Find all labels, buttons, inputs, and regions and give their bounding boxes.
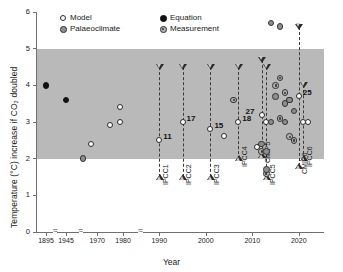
assessment-label: IPCC2 bbox=[185, 164, 192, 185]
assessment-upper-bound-marker bbox=[156, 64, 164, 70]
assessment-label: IPCC1 bbox=[162, 164, 169, 185]
axis-break-mark: ≈ bbox=[138, 227, 142, 235]
y-tick-label: 3 bbox=[14, 118, 30, 126]
y-tick bbox=[33, 48, 37, 49]
y-tick bbox=[33, 158, 37, 159]
data-point-palaeoclimate bbox=[286, 97, 293, 104]
y-tick-label: 6 bbox=[14, 8, 30, 16]
assessment-range-line bbox=[238, 67, 239, 159]
legend-label: Model bbox=[70, 13, 92, 22]
data-point-palaeoclimate bbox=[272, 93, 279, 100]
legend-swatch-palaeoclimate-icon bbox=[60, 26, 67, 33]
data-point-palaeoclimate bbox=[263, 166, 270, 173]
plot-area: 012345618951945197019801990200020102020≈… bbox=[36, 12, 324, 232]
x-tick bbox=[206, 232, 207, 236]
x-tick bbox=[46, 232, 47, 236]
climate-sensitivity-chart: Temperature (°C) increase if CO₂ doubled… bbox=[0, 0, 343, 272]
y-axis-title: Temperature (°C) increase if CO₂ doubled bbox=[9, 67, 19, 228]
data-point-measurement bbox=[291, 137, 298, 144]
assessment-upper-bound-marker bbox=[235, 64, 243, 70]
assessment-label: IPCC3 bbox=[213, 164, 220, 185]
legend-swatch-equation-icon bbox=[160, 15, 167, 22]
assessment-range-line bbox=[159, 67, 160, 177]
y-tick-label: 5 bbox=[14, 45, 30, 53]
data-point-palaeoclimate bbox=[80, 155, 87, 162]
x-tick-label: 1980 bbox=[106, 237, 140, 245]
assessment-upper-bound-marker bbox=[295, 24, 303, 30]
y-tick-label: 0 bbox=[14, 228, 30, 236]
data-point-equation bbox=[43, 82, 50, 89]
legend-label: Palaeoclimate bbox=[70, 24, 120, 33]
data-point-measurement bbox=[282, 89, 289, 96]
assessment-label: CMIP6 bbox=[301, 153, 308, 174]
assessment-upper-bound-marker bbox=[207, 64, 215, 70]
assessment-label: IPCC5 bbox=[269, 164, 276, 185]
data-point-palaeoclimate bbox=[263, 148, 270, 155]
y-tick bbox=[33, 12, 37, 13]
legend-item-measurement: Measurement bbox=[160, 25, 209, 34]
data-point-palaeoclimate bbox=[277, 23, 284, 30]
x-tick bbox=[97, 232, 98, 236]
y-tick-label: 1 bbox=[14, 191, 30, 199]
legend-item-palaeoclimate: Palaeoclimate bbox=[60, 25, 110, 34]
assessment-model-count: 15 bbox=[214, 121, 223, 130]
x-tick-label: 2010 bbox=[235, 237, 269, 245]
data-point-model bbox=[88, 141, 94, 147]
x-tick-label: 2000 bbox=[189, 237, 223, 245]
data-point-palaeoclimate bbox=[268, 20, 275, 27]
x-tick bbox=[159, 232, 160, 236]
legend-label: Measurement bbox=[170, 24, 219, 33]
y-tick-label: 2 bbox=[14, 155, 30, 163]
data-point-measurement bbox=[272, 82, 279, 89]
x-tick bbox=[299, 232, 300, 236]
x-axis-title: Year bbox=[0, 257, 343, 267]
legend-item-model: Model bbox=[60, 14, 82, 23]
x-tick-label: 2020 bbox=[282, 237, 316, 245]
x-tick-label: 1945 bbox=[49, 237, 83, 245]
data-point-model bbox=[305, 119, 311, 125]
assessment-upper-bound-marker bbox=[179, 64, 187, 70]
legend-swatch-measurement-icon bbox=[160, 26, 167, 33]
axis-break-mark: ≈ bbox=[79, 227, 83, 235]
y-tick-label: 4 bbox=[14, 81, 30, 89]
y-tick bbox=[33, 195, 37, 196]
assessment-model-count: 17 bbox=[187, 114, 196, 123]
y-tick bbox=[33, 85, 37, 86]
assessment-model-count: 11 bbox=[163, 132, 171, 141]
data-point-palaeoclimate bbox=[258, 141, 265, 148]
legend-item-equation: Equation bbox=[160, 14, 192, 23]
x-tick bbox=[66, 232, 67, 236]
assessment-upper-bound-marker bbox=[263, 64, 271, 70]
assessment-best-estimate-marker bbox=[180, 119, 186, 125]
legend-swatch-model-icon bbox=[60, 15, 66, 21]
axis-break-mark: ≈ bbox=[53, 227, 57, 235]
x-tick-label: 1990 bbox=[142, 237, 176, 245]
legend-label: Equation bbox=[170, 13, 202, 22]
x-tick bbox=[123, 232, 124, 236]
assessment-best-estimate-marker bbox=[259, 112, 265, 118]
assessment-upper-bound-marker bbox=[258, 57, 266, 63]
y-tick bbox=[33, 232, 37, 233]
x-tick bbox=[252, 232, 253, 236]
assessment-range-line bbox=[210, 67, 211, 177]
y-tick bbox=[33, 122, 37, 123]
assessment-model-count: 27 bbox=[246, 107, 255, 116]
assessment-label: IPCC4 bbox=[241, 146, 248, 167]
assessment-model-count: 25 bbox=[303, 88, 312, 97]
